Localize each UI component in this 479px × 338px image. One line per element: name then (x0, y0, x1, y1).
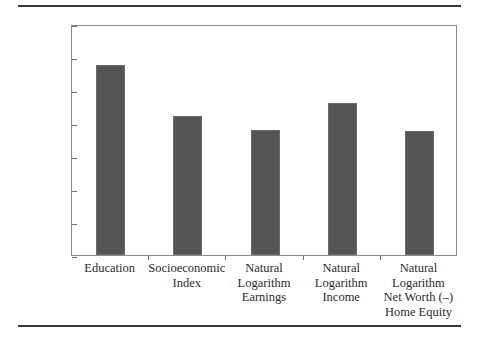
x-axis-label-line: Natural (303, 261, 380, 276)
y-axis-tick (72, 59, 77, 60)
x-axis-label-line: Home Equity (380, 305, 457, 320)
bar (405, 131, 434, 255)
x-axis-label-line: Natural (225, 261, 302, 276)
plot-inner (72, 26, 456, 255)
y-axis-tick (72, 26, 77, 27)
y-axis-tick (72, 191, 77, 192)
x-axis-label-line: Income (303, 290, 380, 305)
x-axis-label: NaturalLogarithmNet Worth (–)Home Equity (380, 261, 457, 319)
x-axis-tick (148, 256, 149, 260)
y-axis-tick (72, 125, 77, 126)
x-axis-label-line: Net Worth (–) (380, 290, 457, 305)
bar (251, 130, 280, 255)
x-axis-label: NaturalLogarithmIncome (303, 261, 380, 305)
x-axis-label-line: Education (71, 261, 148, 276)
x-axis-label: SocioeconomicIndex (148, 261, 225, 290)
x-axis-tick (225, 256, 226, 260)
y-axis-tick (72, 158, 77, 159)
x-axis-label-line: Logarithm (225, 276, 302, 291)
plot-area (71, 25, 457, 256)
x-axis-tick (380, 256, 381, 260)
x-axis-tick (303, 256, 304, 260)
x-axis-label-line: Earnings (225, 290, 302, 305)
bar (328, 103, 357, 255)
top-rule (18, 5, 461, 7)
y-axis-tick (72, 92, 77, 93)
bar (173, 116, 202, 255)
x-axis-label-line: Natural (380, 261, 457, 276)
y-axis-tick (72, 224, 77, 225)
bottom-rule (18, 325, 461, 327)
bar (96, 65, 125, 255)
x-axis-label-line: Logarithm (303, 276, 380, 291)
figure: Sibling Intra-Class Correlation 0.70.60.… (0, 0, 479, 338)
x-axis-label-line: Logarithm (380, 276, 457, 291)
y-axis-tick (72, 257, 77, 258)
x-axis-label: Education (71, 261, 148, 276)
x-axis-label-line: Socioeconomic (148, 261, 225, 276)
x-axis-category-labels: EducationSocioeconomicIndexNaturalLogari… (71, 261, 457, 323)
x-axis-label: NaturalLogarithmEarnings (225, 261, 302, 305)
x-axis-label-line: Index (148, 276, 225, 291)
